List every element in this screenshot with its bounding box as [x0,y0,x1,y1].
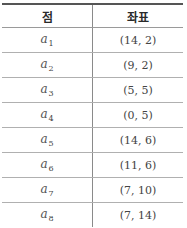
coordinate-cell: (14, 2) [93,28,184,53]
coordinate-cell: (11, 6) [93,153,184,178]
point-cell: a4 [2,103,93,128]
table-row: a1 (14, 2) [2,28,183,53]
point-variable: a [40,57,47,71]
point-subscript: 2 [49,64,54,73]
point-subscript: 3 [49,89,54,98]
point-variable: a [40,32,47,46]
point-cell: a5 [2,128,93,153]
point-cell: a1 [2,28,93,53]
coordinate-cell: (7, 14) [93,203,184,228]
point-variable: a [40,157,47,171]
point-variable: a [40,82,47,96]
coordinate-value: (0, 5) [123,109,153,122]
point-subscript: 6 [49,164,54,173]
header-coordinate: 좌표 [93,4,184,28]
coordinate-value: (7, 10) [120,184,157,197]
coordinate-cell: (0, 5) [93,103,184,128]
table-row: a6 (11, 6) [2,153,183,178]
header-point: 점 [2,4,93,28]
point-variable: a [40,182,47,196]
table-row: a7 (7, 10) [2,178,183,203]
coordinate-cell: (14, 6) [93,128,184,153]
coordinate-value: (14, 2) [120,34,157,47]
point-variable: a [40,132,47,146]
table-row: a4 (0, 5) [2,103,183,128]
table-row: a8 (7, 14) [2,203,183,228]
point-subscript: 7 [49,189,54,198]
coordinate-value: (7, 14) [120,209,157,222]
point-cell: a3 [2,78,93,103]
point-subscript: 8 [49,214,54,223]
point-cell: a8 [2,203,93,228]
points-coordinate-table: 점 좌표 a1 (14, 2) a2 (9, 2) a3 (5, 5) a4 (… [2,3,183,227]
coordinate-value: (9, 2) [123,59,153,72]
table-row: a5 (14, 6) [2,128,183,153]
point-variable: a [40,207,47,221]
coordinate-value: (5, 5) [123,84,153,97]
point-cell: a6 [2,153,93,178]
point-cell: a2 [2,53,93,78]
coordinate-value: (11, 6) [120,159,157,172]
header-row: 점 좌표 [2,4,183,28]
coordinate-cell: (5, 5) [93,78,184,103]
table-row: a3 (5, 5) [2,78,183,103]
point-subscript: 4 [49,114,54,123]
coordinate-cell: (7, 10) [93,178,184,203]
table-row: a2 (9, 2) [2,53,183,78]
point-subscript: 1 [49,39,54,48]
point-variable: a [40,107,47,121]
coordinate-cell: (9, 2) [93,53,184,78]
point-cell: a7 [2,178,93,203]
point-subscript: 5 [49,139,54,148]
coordinate-value: (14, 6) [120,134,157,147]
